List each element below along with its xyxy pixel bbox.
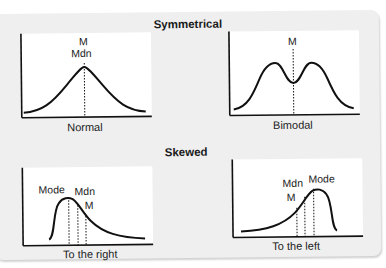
- marker-label-mean: M: [287, 191, 296, 203]
- section-title-symmetrical: Symmetrical: [128, 17, 248, 30]
- marker-label-mode: Mode: [308, 172, 334, 184]
- caption-bimodal: Bimodal: [228, 118, 358, 131]
- marker-label-mean: M: [85, 199, 94, 211]
- marker-label-mode: Mode: [39, 183, 65, 195]
- panel-normal: M Mdn: [21, 32, 152, 117]
- marker-label-mean: M: [79, 35, 88, 47]
- marker-label-median: Mdn: [71, 47, 92, 59]
- caption-right-skewed: To the right: [25, 247, 155, 260]
- section-title-skewed: Skewed: [126, 145, 246, 158]
- caption-left-skewed: To the left: [231, 239, 361, 252]
- panel-left-skewed: M Mdn Mode: [232, 158, 363, 237]
- panel-right-skewed: Mode Mdn M: [22, 166, 153, 245]
- left-skewed-curve-plot: [232, 158, 363, 237]
- marker-label-median: Mdn: [75, 185, 96, 197]
- marker-label-mean: M: [288, 35, 297, 47]
- figure-card: Symmetrical M Mdn Normal M Bimodal Skewe…: [0, 10, 381, 260]
- panel-bimodal: M: [229, 30, 360, 115]
- marker-label-median: Mdn: [282, 177, 303, 189]
- caption-normal: Normal: [20, 120, 150, 133]
